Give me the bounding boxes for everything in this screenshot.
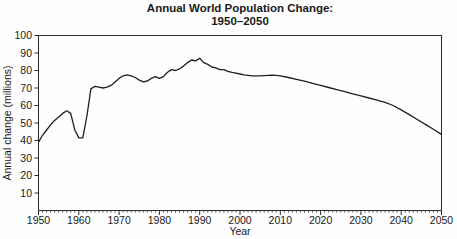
- y-tick-label-60: 60: [20, 99, 32, 111]
- x-tick-label-2050: 2050: [430, 214, 454, 226]
- y-tick-label-90: 90: [20, 47, 32, 59]
- x-tick-label-1960: 1960: [67, 214, 91, 226]
- chart-container: Annual World Population Change: 1950–205…: [0, 0, 457, 239]
- x-tick-label-1970: 1970: [107, 214, 131, 226]
- x-tick-label-2040: 2040: [390, 214, 414, 226]
- y-tick-label-50: 50: [20, 117, 32, 129]
- x-tick-label-1990: 1990: [188, 214, 212, 226]
- chart-title-line2: 1950–2050: [211, 15, 269, 27]
- y-tick-label-80: 80: [20, 64, 32, 76]
- y-tick-label-100: 100: [14, 29, 32, 41]
- chart-title-line1: Annual World Population Change:: [147, 2, 333, 14]
- plot-area-border: [39, 36, 442, 211]
- y-axis-title: Annual change (millions): [1, 66, 13, 181]
- x-tick-label-1980: 1980: [148, 214, 172, 226]
- x-tick-label-2010: 2010: [269, 214, 293, 226]
- y-tick-label-40: 40: [20, 134, 32, 146]
- y-tick-label-70: 70: [20, 82, 32, 94]
- x-tick-label-2030: 2030: [349, 214, 373, 226]
- x-tick-label-1950: 1950: [27, 214, 51, 226]
- x-axis-ticks: 1950196019701980199020002010202020302040…: [27, 211, 454, 226]
- population-change-line: [39, 58, 442, 142]
- x-axis-title: Year: [229, 225, 251, 237]
- y-axis-ticks: 102030405060708090100: [14, 29, 38, 199]
- x-tick-label-2020: 2020: [309, 214, 333, 226]
- y-tick-label-20: 20: [20, 169, 32, 181]
- annual-population-change-chart: Annual World Population Change: 1950–205…: [0, 0, 457, 239]
- y-tick-label-10: 10: [20, 187, 32, 199]
- y-tick-label-30: 30: [20, 152, 32, 164]
